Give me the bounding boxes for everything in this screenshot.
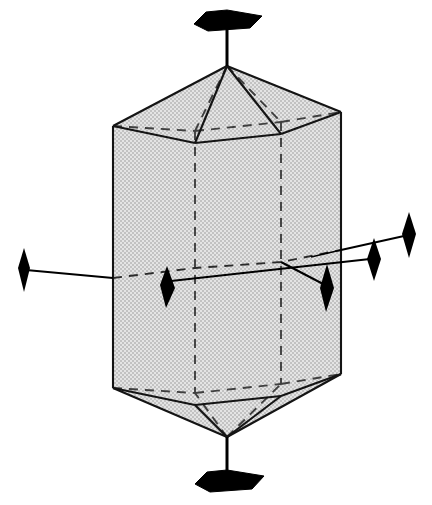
six-fold-axis-symbol-bottom xyxy=(195,470,264,492)
crystal-silhouette xyxy=(113,66,341,437)
crystal-diagram-svg xyxy=(0,0,432,505)
crystal-figure: Hexagonal dipyramid with symmetry axes xyxy=(0,0,432,505)
two-fold-axis-a-line-left xyxy=(26,270,113,278)
six-fold-axis-symbol-top xyxy=(194,10,262,31)
two-fold-axis-symbol-left xyxy=(18,248,30,292)
two-fold-axis-symbol-far-right xyxy=(402,212,416,258)
crystal-body xyxy=(113,66,341,437)
